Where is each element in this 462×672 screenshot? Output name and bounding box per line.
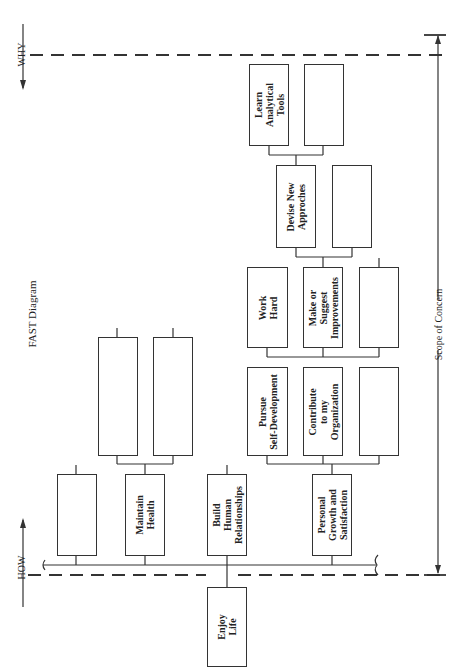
node-label: Work Hard xyxy=(257,295,279,319)
node-make-suggest-improvements: Make or Suggest Improvements xyxy=(303,267,343,348)
scope-of-concern-label: Scope of Concern xyxy=(433,285,444,365)
node-label: Devise New Approches xyxy=(285,182,307,231)
node-label: Pursue Self-Development xyxy=(257,374,279,450)
node-pursue-self-development: Pursue Self-Development xyxy=(247,367,288,456)
node-empty-3 xyxy=(153,337,193,456)
node-empty-5 xyxy=(359,267,399,348)
node-label: Enjoy Life xyxy=(216,614,238,640)
node-personal-growth: Personal Growth and Satisfaction xyxy=(312,474,352,556)
node-label: Contribute to my Organization xyxy=(307,383,340,440)
node-label: Make or Suggest Improvements xyxy=(307,276,340,338)
node-enjoy-life: Enjoy Life xyxy=(207,587,247,667)
node-build-relationships: Build Human Relationships xyxy=(207,474,247,556)
how-label: HOW xyxy=(16,553,27,583)
node-label: Personal Growth and Satisfaction xyxy=(316,489,349,541)
node-contribute-organization: Contribute to my Organization xyxy=(303,367,343,456)
diagram-title: FAST Diagram xyxy=(26,274,38,354)
node-empty-4 xyxy=(359,367,399,456)
node-work-hard: Work Hard xyxy=(247,267,288,348)
why-label: WHY xyxy=(16,40,27,70)
node-learn-analytical-tools: Learn Analytical Tools xyxy=(249,64,289,146)
node-empty-1 xyxy=(57,474,97,556)
node-maintain-health: Maintain Health xyxy=(125,474,165,556)
node-empty-6 xyxy=(332,165,372,248)
node-label: Build Human Relationships xyxy=(211,486,244,544)
node-label: Maintain Health xyxy=(134,495,156,534)
node-empty-2 xyxy=(98,337,138,456)
node-empty-7 xyxy=(304,64,344,146)
node-devise-new-approaches: Devise New Approches xyxy=(276,165,316,248)
node-label: Learn Analytical Tools xyxy=(253,83,286,127)
